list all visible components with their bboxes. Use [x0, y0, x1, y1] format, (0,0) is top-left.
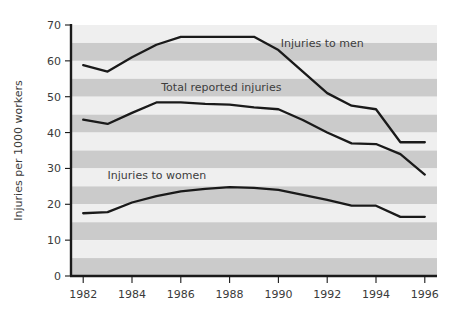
- x-tick-label: 1984: [118, 288, 146, 301]
- y-axis-title-label: Injuries per 1000 workers: [12, 80, 25, 221]
- x-axis: 19821984198619881990199219941996: [69, 276, 439, 301]
- y-axis: 010203040506070: [47, 19, 71, 283]
- background-band: [71, 240, 437, 258]
- y-tick-label: 30: [47, 162, 61, 175]
- line-chart: 010203040506070 198219841986198819901992…: [0, 0, 459, 324]
- x-tick-label: 1994: [362, 288, 390, 301]
- x-tick-label: 1988: [216, 288, 244, 301]
- background-band: [71, 43, 437, 61]
- x-tick-label: 1992: [313, 288, 341, 301]
- background-band: [71, 151, 437, 169]
- y-axis-title: Injuries per 1000 workers: [12, 80, 25, 221]
- series-annotation-label: Injuries to men: [281, 37, 364, 50]
- background-band: [71, 204, 437, 222]
- y-tick-label: 40: [47, 127, 61, 140]
- background-band: [71, 133, 437, 151]
- x-tick-label: 1982: [69, 288, 97, 301]
- background-band: [71, 186, 437, 204]
- series-annotation-label: Total reported injuries: [160, 81, 281, 94]
- chart-canvas: 010203040506070 198219841986198819901992…: [0, 0, 459, 324]
- x-tick-label: 1990: [264, 288, 292, 301]
- y-tick-label: 70: [47, 19, 61, 32]
- x-tick-label: 1996: [411, 288, 439, 301]
- y-tick-label: 50: [47, 91, 61, 104]
- background-band: [71, 97, 437, 115]
- series-annotation-label: Injuries to women: [108, 169, 207, 182]
- y-tick-label: 10: [47, 234, 61, 247]
- background-band: [71, 61, 437, 79]
- plot-background-bands: [71, 25, 437, 276]
- x-tick-label: 1986: [167, 288, 195, 301]
- y-tick-label: 0: [54, 270, 61, 283]
- y-tick-label: 60: [47, 55, 61, 68]
- background-band: [71, 222, 437, 240]
- y-tick-label: 20: [47, 198, 61, 211]
- background-band: [71, 258, 437, 276]
- background-band: [71, 25, 437, 43]
